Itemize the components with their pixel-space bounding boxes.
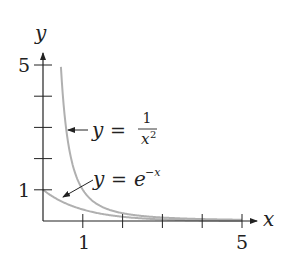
fraction-exponent: 2: [150, 129, 156, 140]
x-axis-label: x: [263, 207, 274, 231]
fraction-numerator: 1: [143, 110, 152, 126]
exponential-exponent: −x: [145, 166, 161, 179]
annotation-inverse-square: y = 1 x 2: [68, 110, 157, 148]
fraction-denominator: x: [141, 130, 150, 148]
x-tick-label-1: 1: [78, 231, 90, 253]
annotation-equals: =: [111, 168, 127, 190]
y-tick-label-5: 5: [18, 54, 30, 76]
y-tick-label-1: 1: [18, 179, 30, 201]
chart: y x 1 5 1 5 y = 1 x 2 y = e −x: [0, 0, 288, 276]
annotation-equals: =: [110, 119, 126, 141]
curve-inverse-square: [61, 67, 242, 220]
annotation-lhs: y: [92, 167, 105, 191]
y-axis-label: y: [34, 21, 47, 45]
annotation-lhs: y: [91, 118, 104, 142]
x-tick-label-5: 5: [236, 231, 248, 253]
